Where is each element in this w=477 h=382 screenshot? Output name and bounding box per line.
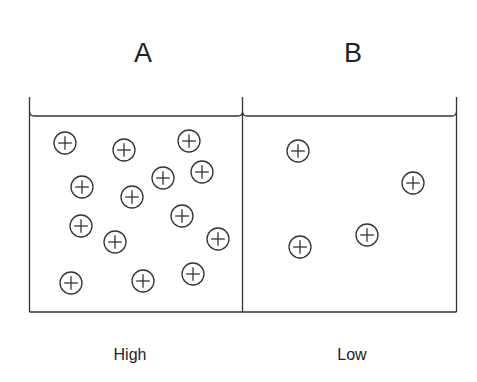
positive-ion-icon [207, 228, 229, 250]
positive-ion-icon [70, 215, 92, 237]
positive-ion-icon [113, 139, 135, 161]
compartment-b-concentration-label: Low [337, 346, 366, 364]
positive-ion-icon [54, 132, 76, 154]
compartment-a-concentration-label: High [114, 346, 147, 364]
liquid-surface-a [30, 112, 243, 116]
positive-ion-icon [178, 130, 200, 152]
positive-ion-icon [121, 186, 143, 208]
positive-ion-icon [182, 263, 204, 285]
positive-ion-icon [289, 236, 311, 258]
positive-ion-icon [356, 224, 378, 246]
positive-ion-icon [191, 161, 213, 183]
positive-ion-icon [287, 140, 309, 162]
positive-ion-icon [60, 272, 82, 294]
positive-ion-icon [132, 270, 154, 292]
positive-ion-icon [152, 167, 174, 189]
container-walls [30, 97, 457, 312]
positive-ion-icon [104, 231, 126, 253]
positive-ion-icon [402, 172, 424, 194]
liquid-surface-b [243, 112, 457, 116]
positive-ion-icon [171, 205, 193, 227]
positive-ion-icon [71, 176, 93, 198]
container-diagram [0, 0, 477, 382]
ions-layer [54, 130, 424, 294]
